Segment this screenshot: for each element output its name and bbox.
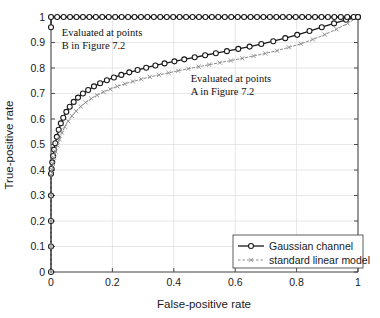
data-point-marker (80, 15, 85, 20)
data-point-marker (111, 75, 116, 80)
data-point-marker (86, 87, 91, 92)
data-point-marker (280, 15, 285, 20)
data-point-marker (126, 15, 131, 20)
data-point-marker (261, 15, 266, 20)
data-point-marker (222, 15, 227, 20)
data-point-marker (98, 81, 103, 86)
data-point-marker (332, 21, 337, 26)
data-point-marker (274, 15, 279, 20)
data-point-marker (127, 70, 132, 75)
data-point-marker (216, 15, 221, 20)
y-axis-title: True-positive rate (3, 100, 15, 189)
y-tick-label: 0.4 (30, 164, 45, 176)
data-point-marker (119, 15, 124, 20)
data-point-marker (93, 15, 98, 20)
data-point-marker (190, 15, 195, 20)
legend-label: standard linear model (269, 254, 370, 266)
data-point-marker (138, 15, 143, 20)
data-point-marker (267, 15, 272, 20)
x-tick-label: 0.4 (166, 276, 181, 288)
data-point-marker (151, 15, 156, 20)
data-point-marker (80, 91, 85, 96)
x-axis-title: False-positive rate (157, 298, 251, 310)
data-point-marker (162, 61, 167, 66)
data-point-marker (58, 121, 63, 126)
data-point-marker (255, 15, 260, 20)
data-point-marker (300, 15, 305, 20)
data-point-marker (113, 15, 118, 20)
data-point-marker (247, 44, 252, 49)
figure-background (0, 0, 380, 318)
x-tick-label: 0.2 (105, 276, 120, 288)
data-point-marker (319, 25, 324, 30)
data-point-marker (287, 15, 292, 20)
data-point-marker (295, 32, 300, 37)
data-point-marker (135, 68, 140, 73)
y-tick-label: 0.9 (30, 36, 45, 48)
x-tick-label: 0.8 (289, 276, 304, 288)
data-point-marker (306, 15, 311, 20)
data-point-marker (235, 15, 240, 20)
data-point-marker (61, 115, 66, 120)
data-point-marker (293, 15, 298, 20)
data-point-marker (209, 15, 214, 20)
data-point-marker (192, 55, 197, 60)
data-point-marker (49, 15, 54, 20)
data-point-marker (313, 15, 318, 20)
y-tick-label: 0.8 (30, 62, 45, 74)
y-tick-label: 0.6 (30, 113, 45, 125)
data-point-marker (177, 15, 182, 20)
data-point-marker (236, 46, 241, 51)
annotation-b-line: Evaluated at points (62, 27, 142, 38)
legend-circle-marker-icon (249, 244, 254, 249)
annotation-b-line: B in Figure 7.2 (62, 40, 126, 51)
data-point-marker (100, 15, 105, 20)
x-tick-label: 0.6 (228, 276, 243, 288)
y-tick-label: 0 (39, 266, 45, 278)
x-tick-label: 0 (48, 276, 54, 288)
data-point-marker (248, 15, 253, 20)
data-point-marker (283, 36, 288, 41)
y-tick-label: 0.5 (30, 138, 45, 150)
data-point-marker (68, 15, 73, 20)
data-point-marker (271, 39, 276, 44)
data-point-marker (196, 15, 201, 20)
data-point-marker (132, 15, 137, 20)
chart-legend[interactable]: Gaussian channelstandard linear model (233, 235, 370, 268)
data-point-marker (307, 29, 312, 34)
data-point-marker (182, 57, 187, 62)
data-point-marker (332, 15, 337, 20)
data-point-marker (164, 15, 169, 20)
data-point-marker (74, 15, 79, 20)
x-tick-label: 1 (355, 276, 361, 288)
data-point-marker (345, 15, 350, 20)
data-point-marker (203, 53, 208, 58)
data-point-marker (338, 15, 343, 20)
data-point-marker (87, 15, 92, 20)
chart-canvas: 00.20.40.60.8100.10.20.30.40.50.60.70.80… (0, 0, 380, 318)
data-point-marker (55, 15, 60, 20)
data-point-marker (64, 109, 69, 114)
data-point-marker (242, 15, 247, 20)
data-point-marker (144, 65, 149, 70)
y-tick-label: 0.2 (30, 215, 45, 227)
data-point-marker (325, 15, 330, 20)
data-point-marker (213, 51, 218, 56)
roc-curve-figure: 00.20.40.60.8100.10.20.30.40.50.60.70.80… (0, 0, 380, 318)
data-point-marker (71, 99, 76, 104)
data-point-marker (158, 15, 163, 20)
y-tick-label: 0.3 (30, 189, 45, 201)
data-point-marker (106, 15, 111, 20)
data-point-marker (61, 15, 66, 20)
data-point-marker (224, 49, 229, 54)
y-tick-label: 1 (39, 11, 45, 23)
annotation-a-line: Evaluated at points (191, 73, 271, 84)
data-point-marker (91, 84, 96, 89)
legend-label: Gaussian channel (269, 240, 353, 252)
data-point-marker (203, 15, 208, 20)
data-point-marker (145, 15, 150, 20)
data-point-marker (67, 104, 72, 109)
data-point-marker (171, 15, 176, 20)
y-tick-label: 0.1 (30, 240, 45, 252)
data-point-marker (119, 72, 124, 77)
